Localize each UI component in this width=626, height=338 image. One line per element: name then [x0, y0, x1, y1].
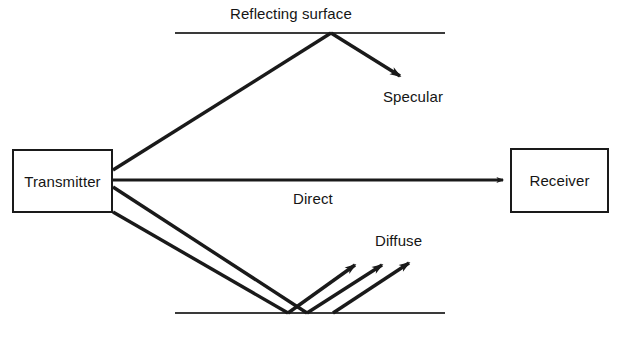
- receiver-label: Receiver: [530, 172, 590, 189]
- reflecting-surface-label: Reflecting surface: [230, 5, 352, 22]
- incident-diffuse-ray-lower: [113, 212, 288, 313]
- incident-diffuse-ray-upper: [113, 187, 307, 313]
- direct-label: Direct: [293, 190, 333, 207]
- propagation-paths-diagram: Transmitter Receiver Reflecting surface …: [0, 0, 626, 338]
- specular-reflected-ray: [331, 33, 400, 76]
- transmitter-node: Transmitter: [12, 149, 113, 213]
- specular-label: Specular: [383, 88, 443, 105]
- diffuse-label: Diffuse: [375, 232, 422, 249]
- receiver-node: Receiver: [510, 148, 609, 213]
- transmitter-label: Transmitter: [24, 173, 100, 190]
- incident-specular-ray: [113, 33, 331, 170]
